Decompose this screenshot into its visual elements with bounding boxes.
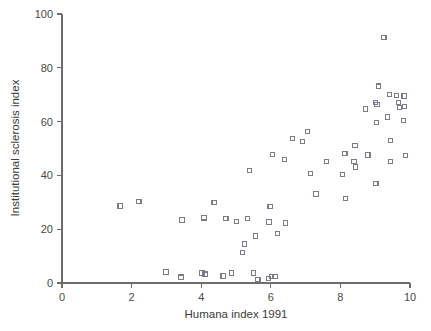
- data-point: [374, 181, 378, 185]
- data-point: [283, 221, 287, 225]
- data-point: [364, 107, 368, 111]
- data-point: [247, 168, 251, 172]
- data-point: [246, 216, 250, 220]
- y-axis-ticks: 020406080100: [35, 8, 62, 289]
- data-point: [224, 216, 228, 220]
- data-point: [268, 205, 272, 209]
- data-point: [252, 271, 256, 275]
- data-point: [309, 171, 313, 175]
- data-point: [275, 232, 279, 236]
- data-point: [137, 200, 141, 204]
- data-point: [325, 160, 329, 164]
- data-point: [164, 270, 168, 274]
- data-point: [366, 153, 370, 157]
- data-point: [242, 242, 246, 246]
- y-tick-label: 0: [47, 277, 53, 289]
- x-axis-ticks: 0246810: [59, 283, 416, 303]
- data-point: [267, 220, 271, 224]
- chart-canvas: 020406080100 0246810 Humana index 1991 I…: [0, 0, 431, 331]
- data-point: [202, 216, 206, 220]
- data-point: [352, 159, 356, 163]
- data-point: [230, 271, 234, 275]
- data-point: [256, 277, 260, 281]
- data-point: [283, 157, 287, 161]
- data-point: [291, 137, 295, 141]
- data-point: [212, 200, 216, 204]
- y-tick-label: 40: [41, 169, 53, 181]
- data-point: [301, 139, 305, 143]
- x-tick-label: 8: [337, 291, 343, 303]
- x-tick-label: 10: [404, 291, 416, 303]
- data-point: [388, 92, 392, 96]
- data-point: [403, 153, 407, 157]
- data-point: [402, 104, 406, 108]
- y-tick-label: 100: [35, 8, 53, 20]
- data-point: [118, 204, 122, 208]
- data-point: [397, 105, 401, 109]
- data-point: [221, 274, 225, 278]
- y-axis-title: Institutional sclerosis index: [9, 79, 21, 216]
- data-point: [344, 197, 348, 201]
- data-point: [253, 234, 257, 238]
- data-point: [179, 275, 183, 279]
- data-point: [314, 192, 318, 196]
- data-point: [402, 119, 406, 123]
- y-tick-label: 80: [41, 62, 53, 74]
- plot-area: 020406080100 0246810: [35, 8, 416, 303]
- data-point: [382, 35, 386, 39]
- data-point: [235, 219, 239, 223]
- y-tick-label: 20: [41, 223, 53, 235]
- x-tick-label: 6: [268, 291, 274, 303]
- data-point: [343, 151, 347, 155]
- x-tick-label: 0: [59, 291, 65, 303]
- data-point: [386, 115, 390, 119]
- data-point: [388, 160, 392, 164]
- data-point: [397, 101, 401, 105]
- data-point: [180, 218, 184, 222]
- y-tick-label: 60: [41, 116, 53, 128]
- data-point-group: [118, 35, 407, 281]
- data-point: [389, 138, 393, 142]
- data-point: [395, 93, 399, 97]
- x-tick-label: 4: [198, 291, 204, 303]
- data-point: [305, 130, 309, 134]
- data-point: [240, 251, 244, 255]
- data-point: [354, 165, 358, 169]
- data-point: [374, 120, 378, 124]
- data-point: [341, 172, 345, 176]
- data-point: [353, 143, 357, 147]
- data-point: [376, 84, 380, 88]
- x-tick-label: 2: [129, 291, 135, 303]
- scatter-plot-figure: 020406080100 0246810 Humana index 1991 I…: [0, 0, 431, 331]
- x-axis-title: Humana index 1991: [185, 308, 288, 320]
- data-point: [402, 94, 406, 98]
- data-point: [270, 152, 274, 156]
